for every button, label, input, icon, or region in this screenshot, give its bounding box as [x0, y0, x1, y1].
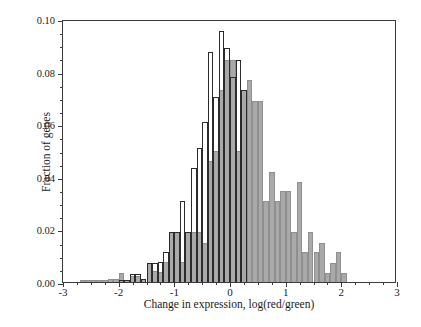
x-minor-tick [105, 282, 106, 285]
y-minor-tick [60, 258, 63, 259]
y-minor-tick [60, 218, 63, 219]
x-minor-tick [383, 282, 384, 285]
x-tick-label: 2 [339, 287, 345, 298]
x-minor-tick [258, 282, 259, 285]
x-tick-label: -2 [114, 287, 123, 298]
histogram-bar [241, 90, 247, 282]
y-minor-tick [60, 205, 63, 206]
x-minor-tick [147, 282, 148, 285]
y-tick-mark [58, 126, 63, 127]
y-tick-label: 0.10 [37, 16, 55, 27]
x-minor-tick [216, 282, 217, 285]
y-tick-mark [58, 21, 63, 22]
x-minor-tick [188, 282, 189, 285]
y-minor-tick [60, 245, 63, 246]
x-tick-label: -1 [170, 287, 179, 298]
x-minor-tick [244, 282, 245, 285]
y-minor-tick [60, 113, 63, 114]
histogram-figure: 0.000.020.040.060.080.10 -3-2-10123 Chan… [0, 0, 421, 327]
histogram-bar [341, 273, 347, 282]
y-minor-tick [60, 139, 63, 140]
y-axis-title: Fraction of genes [40, 112, 52, 192]
y-minor-tick [60, 271, 63, 272]
y-minor-tick [60, 166, 63, 167]
y-minor-tick [60, 47, 63, 48]
x-minor-tick [272, 282, 273, 285]
y-tick-mark [58, 179, 63, 180]
x-minor-tick [133, 282, 134, 285]
y-minor-tick [60, 192, 63, 193]
bars-layer [63, 21, 395, 282]
x-minor-tick [327, 282, 328, 285]
x-axis-title: Change in expression, log(red/green) [62, 298, 396, 310]
plot-area: 0.000.020.040.060.080.10 -3-2-10123 [62, 20, 396, 283]
x-tick-label: 1 [283, 287, 289, 298]
x-minor-tick [314, 282, 315, 285]
x-minor-tick [369, 282, 370, 285]
y-minor-tick [60, 153, 63, 154]
y-tick-label: 0.00 [37, 279, 55, 290]
y-minor-tick [60, 34, 63, 35]
x-minor-tick [77, 282, 78, 285]
y-tick-label: 0.02 [37, 226, 55, 237]
y-minor-tick [60, 100, 63, 101]
x-tick-label: -3 [58, 287, 67, 298]
x-minor-tick [91, 282, 92, 285]
y-tick-mark [58, 74, 63, 75]
x-minor-tick [160, 282, 161, 285]
y-minor-tick [60, 60, 63, 61]
x-minor-tick [355, 282, 356, 285]
x-minor-tick [300, 282, 301, 285]
x-minor-tick [202, 282, 203, 285]
y-minor-tick [60, 87, 63, 88]
y-tick-label: 0.08 [37, 68, 55, 79]
x-tick-label: 3 [394, 287, 400, 298]
x-tick-label: 0 [227, 287, 233, 298]
y-tick-mark [58, 231, 63, 232]
